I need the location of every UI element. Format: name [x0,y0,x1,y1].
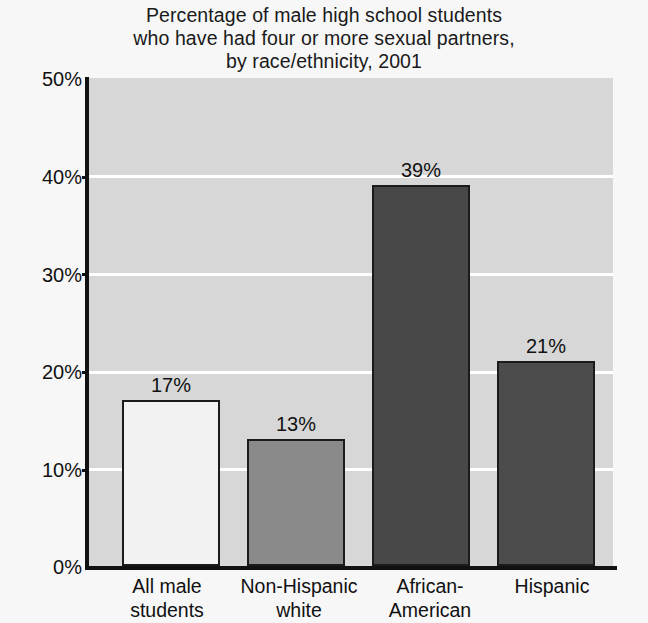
bar-non-hispanic-white[interactable] [247,439,345,566]
bar-all-male-students[interactable] [122,400,220,566]
bar-hispanic[interactable] [497,361,595,566]
bar-value-label-african-american: 39% [372,160,470,180]
x-axis-line [85,566,617,570]
chart-title-line-1: Percentage of male high school students [0,4,648,27]
y-axis-tick-label-30: 30% [2,265,82,285]
x-axis-label-all-male-students: All male students [97,574,237,622]
x-axis-label-all-male-students-line-1: All male [97,574,237,598]
y-axis-tick-label-40: 40% [2,167,82,187]
plot-area-wrapper: 17% 13% 39% 21% [89,78,613,566]
y-axis-tick-label-0: 0% [2,557,82,577]
bar-african-american[interactable] [372,185,470,566]
bar-value-label-non-hispanic-white: 13% [247,414,345,434]
gridline-30 [89,273,613,276]
bar-value-label-hispanic: 21% [497,336,595,356]
y-axis-tick-label-20: 20% [2,362,82,382]
y-axis-line [85,77,89,569]
chart-title-line-2: who have had four or more sexual partner… [0,27,648,50]
bar-value-label-all-male-students: 17% [122,375,220,395]
x-axis-label-all-male-students-line-2: students [97,598,237,622]
y-axis-tick-label-10: 10% [2,460,82,480]
gridline-40 [89,175,613,178]
chart-title-line-3: by race/ethnicity, 2001 [0,50,648,73]
x-axis-label-hispanic-line-1: Hispanic [482,574,622,598]
chart-title: Percentage of male high school students … [0,4,648,73]
x-axis-label-hispanic: Hispanic [482,574,622,598]
y-axis-tick-label-50: 50% [2,69,82,89]
x-axis-label-african-american-line-2: American [356,598,504,622]
